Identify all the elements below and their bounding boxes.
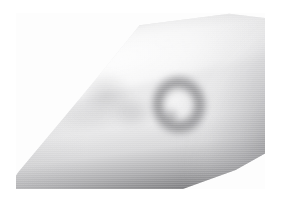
- photo-frame: [16, 13, 265, 189]
- annular-lesion: [144, 68, 215, 142]
- photo-caption: Grayscale clinical photograph of a forea…: [0, 0, 1, 1]
- page-root: Grayscale clinical photograph of a forea…: [0, 0, 285, 214]
- forearm-skin: [16, 13, 265, 189]
- faint-macule-tertiary: [60, 103, 118, 128]
